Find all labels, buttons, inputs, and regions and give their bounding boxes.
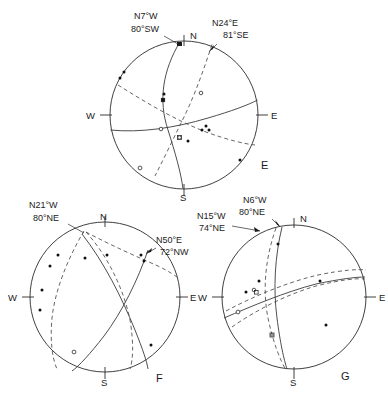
figure-label-f: F	[156, 372, 163, 384]
pole-point	[161, 98, 164, 101]
pole-point	[72, 350, 76, 354]
attitude-label-n50e-dip: 72°NW	[160, 247, 189, 257]
pole-point	[123, 71, 126, 74]
attitude-label-n7w-dip: 80°SW	[131, 24, 160, 34]
cardinal-east-e: E	[271, 110, 277, 121]
pole-point	[178, 136, 181, 139]
pole-point	[319, 280, 322, 283]
cardinal-east-f: E	[190, 292, 196, 303]
pole-point	[187, 140, 190, 143]
attitude-label-n15w-dip: 74°NE	[199, 223, 225, 233]
stereonet-panel-g: N S W E N6°W 80°NE N15°W 74°NE G	[197, 195, 385, 388]
pole-point	[106, 254, 109, 257]
primitive-circle-g	[222, 225, 366, 369]
stereonet-panel-e: N S W E N7°W 80°SW N24°E 81°SE E	[86, 11, 277, 203]
cardinal-west-g: W	[198, 292, 207, 303]
pole-point	[49, 265, 52, 268]
cardinal-south-e: S	[180, 192, 186, 203]
arrowhead-n15w-g	[254, 227, 260, 232]
cardinal-west-e: W	[86, 110, 95, 121]
attitude-label-n21w-dip: 80°NE	[33, 213, 59, 223]
pole-point	[143, 260, 146, 263]
cardinal-north-e: N	[190, 30, 197, 41]
figure-label-g: G	[341, 370, 350, 382]
cardinal-east-g: E	[379, 292, 385, 303]
leader-n6w-g	[272, 219, 280, 227]
attitude-label-n6w-dip: 80°NE	[239, 207, 265, 217]
attitude-label-n21w-strike: N21°W	[29, 200, 58, 210]
stereonet-panel-f: N S W E N21°W 80°NE N50°E 72°NW F	[8, 200, 196, 388]
pole-point	[236, 310, 240, 314]
pole-point	[201, 129, 204, 132]
pole-point	[159, 127, 163, 131]
pole-point	[150, 344, 153, 347]
pole-point	[119, 77, 122, 80]
attitude-label-n50e-strike: N50°E	[156, 235, 182, 245]
pole-point	[325, 324, 328, 327]
pole-point	[84, 257, 87, 260]
stereonet-figure: N S W E N7°W 80°SW N24°E 81°SE E	[0, 0, 388, 399]
cardinal-south-g: S	[290, 377, 296, 388]
pole-point	[163, 93, 166, 96]
attitude-label-n24e-strike: N24°E	[212, 18, 238, 28]
pole-point	[41, 289, 44, 292]
pole-point	[57, 254, 60, 257]
attitude-label-n24e-dip: 81°SE	[223, 30, 249, 40]
marker-n7w-e	[177, 42, 182, 46]
attitude-label-n7w-strike: N7°W	[134, 11, 158, 21]
pole-point	[199, 91, 203, 95]
pole-point	[271, 334, 274, 337]
cardinal-north-f: N	[100, 211, 107, 222]
cardinal-west-f: W	[8, 292, 17, 303]
attitude-label-n6w-strike: N6°W	[243, 195, 267, 205]
figure-label-e: E	[261, 159, 268, 171]
stereonet-canvas: N S W E N7°W 80°SW N24°E 81°SE E	[0, 0, 388, 399]
pole-point	[277, 243, 280, 246]
attitude-label-n15w-strike: N15°W	[197, 211, 226, 221]
pole-point	[258, 280, 261, 283]
pole-point	[39, 309, 42, 312]
pole-point	[205, 125, 208, 128]
pole-point	[252, 288, 256, 292]
primitive-circle-e	[110, 41, 258, 189]
pole-point	[140, 254, 143, 257]
pole-point	[138, 166, 142, 170]
pole-point	[239, 159, 242, 162]
cardinal-south-f: S	[101, 377, 107, 388]
pole-point	[208, 129, 211, 132]
cardinal-north-g: N	[300, 213, 307, 224]
pole-point	[245, 291, 248, 294]
